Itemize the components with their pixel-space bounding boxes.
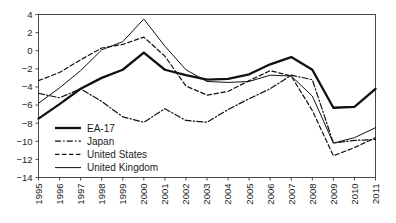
- y-tick-label: 2: [27, 27, 32, 38]
- legend-label-united-states: United States: [87, 149, 147, 160]
- x-tick-label: 2010: [349, 184, 360, 205]
- x-tick-label: 2009: [328, 184, 339, 205]
- x-tick-label: 2001: [159, 184, 170, 205]
- chart-legend: EA-17JapanUnited StatesUnited Kingdom: [55, 123, 158, 174]
- legend-label-united-kingdom: United Kingdom: [87, 162, 158, 173]
- x-tick-label: 2011: [370, 184, 381, 204]
- y-tick-label: −4: [22, 81, 33, 92]
- x-tick-label: 2006: [265, 184, 276, 205]
- y-tick-label: 0: [27, 45, 32, 56]
- y-tick-label: −6: [22, 99, 33, 110]
- x-tick-label: 2004: [222, 184, 233, 205]
- y-tick-label: 4: [27, 9, 32, 20]
- x-tick-label: 2008: [307, 184, 318, 205]
- x-tick-label: 2000: [138, 184, 149, 205]
- x-tick-label: 1999: [117, 184, 128, 205]
- x-tick-label: 1996: [54, 184, 65, 205]
- y-tick-label: −10: [16, 136, 32, 147]
- line-chart-figure: 420−2−4−6−8−10−12−14 1995199619971998199…: [0, 0, 396, 223]
- x-tick-label: 1997: [75, 184, 86, 205]
- y-tick-label: −8: [22, 118, 33, 129]
- x-tick-label: 2002: [180, 184, 191, 205]
- x-axis: 1995199619971998199920002001200220032004…: [33, 178, 381, 205]
- x-tick-label: 2007: [286, 184, 297, 205]
- x-tick-label: 2003: [201, 184, 212, 205]
- chart-canvas: 420−2−4−6−8−10−12−14 1995199619971998199…: [0, 0, 396, 223]
- x-tick-label: 1995: [33, 184, 44, 205]
- x-tick-label: 2005: [244, 184, 255, 205]
- x-tick-label: 1998: [96, 184, 107, 205]
- y-tick-label: −12: [16, 154, 32, 165]
- y-tick-label: −2: [22, 63, 33, 74]
- y-tick-label: −14: [16, 172, 32, 183]
- legend-label-ea-17: EA-17: [87, 123, 115, 134]
- legend-label-japan: Japan: [87, 136, 114, 147]
- y-axis: 420−2−4−6−8−10−12−14: [16, 9, 38, 183]
